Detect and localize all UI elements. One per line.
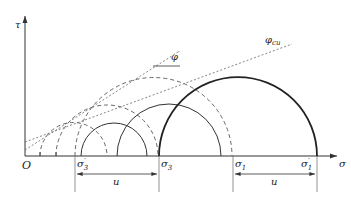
tau-axis-label: τ	[15, 20, 21, 30]
pore-pressure-label-left: u	[113, 177, 119, 187]
sigma1-prime-label: σ1′	[301, 159, 314, 169]
sigma-axis-label: σ	[339, 159, 346, 169]
effective-circle-medium	[56, 105, 158, 156]
undrained-friction-angle-label: φcu	[265, 35, 280, 45]
mohr-diagram	[0, 0, 351, 208]
total-circle-large	[159, 77, 317, 156]
origin-label: O	[22, 160, 31, 171]
effective-envelope-line	[25, 52, 178, 150]
effective-circle-large	[75, 78, 232, 157]
effective-friction-angle-label: φ′	[171, 52, 180, 62]
pore-pressure-label-right: u	[271, 177, 277, 187]
sigma3-label: σ3	[161, 159, 172, 169]
sigma1-label: σ1	[235, 159, 246, 169]
sigma3-prime-label: σ3′	[77, 159, 90, 169]
